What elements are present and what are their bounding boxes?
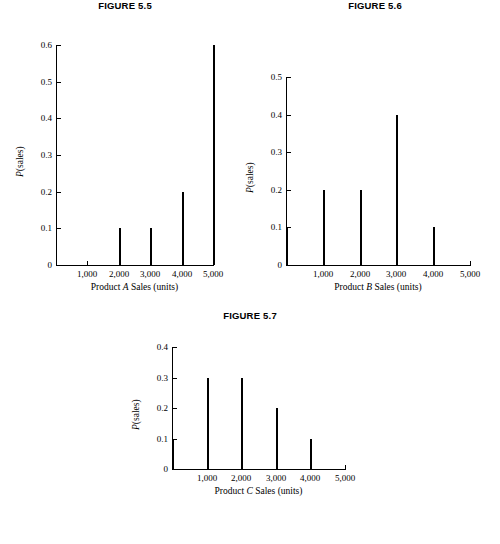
y-axis-tick [57, 155, 61, 156]
x-axis-tick-label: 2,000 [221, 474, 261, 483]
figure-5-5-plot: 00.10.20.30.40.50.61,0002,0003,0004,0005… [0, 0, 250, 300]
y-axis-tick [173, 378, 177, 379]
y-axis-tick-label: 0.5 [26, 78, 52, 87]
bar [241, 378, 243, 469]
y-axis-tick-label: 0.2 [142, 404, 168, 413]
bar [433, 227, 435, 265]
y-axis-tick [57, 82, 61, 83]
x-axis-title: Product B Sales (units) [288, 283, 468, 293]
y-axis-tick-label: 0.4 [26, 114, 52, 123]
x-axis-tick-label: 5,000 [193, 270, 233, 279]
bar [276, 408, 278, 469]
bar [182, 192, 184, 265]
y-axis-title: P(sales) [246, 162, 256, 193]
figure-5-6-plot: 00.10.20.30.40.51,0002,0003,0004,0005,00… [250, 0, 500, 310]
bar [150, 228, 152, 265]
y-axis-tick [57, 118, 61, 119]
figure-5-7-plot: 00.10.20.30.41,0002,0003,0004,0005,000Pr… [125, 310, 375, 544]
x-axis-line [286, 265, 471, 266]
x-axis-tick-label: 2,000 [340, 270, 380, 279]
x-axis-title: Product A Sales (units) [45, 283, 225, 293]
y-axis-tick-label: 0.1 [256, 223, 282, 232]
y-axis-title: P(sales) [132, 399, 142, 430]
y-axis-tick-label: 0.3 [256, 148, 282, 157]
bar [360, 190, 362, 265]
x-axis-tick-label: 5,000 [325, 474, 365, 483]
y-axis-tick-label: 0.1 [26, 224, 52, 233]
y-axis-tick-label: 0.5 [256, 73, 282, 82]
bar [119, 228, 121, 265]
y-axis-tick [57, 228, 61, 229]
y-axis-tick [287, 77, 291, 78]
y-axis-tick-label: 0.3 [26, 151, 52, 160]
y-axis-tick-label: 0.2 [256, 186, 282, 195]
y-axis-tick-label: 0.4 [142, 343, 168, 352]
figure-5-7: FIGURE 5.7 00.10.20.30.41,0002,0003,0004… [125, 310, 375, 544]
x-axis-tick-label: 1,000 [303, 270, 343, 279]
x-axis-tick-label: 5,000 [450, 270, 490, 279]
bar [396, 115, 398, 265]
y-axis-tick [57, 45, 61, 46]
y-axis-tick-label: 0.2 [26, 188, 52, 197]
x-axis-tick-label: 4,000 [290, 474, 330, 483]
y-axis-tick [173, 347, 177, 348]
y-axis-tick [287, 115, 291, 116]
y-axis-tick-label: 0.3 [142, 374, 168, 383]
x-axis-tick [87, 261, 88, 265]
x-axis-tick-label: 4,000 [413, 270, 453, 279]
x-axis-line [56, 265, 214, 266]
x-axis-title: Product C Sales (units) [169, 487, 349, 497]
bar [172, 439, 174, 469]
x-axis-tick-label: 3,000 [376, 270, 416, 279]
y-axis-tick [287, 190, 291, 191]
y-axis-tick [173, 408, 177, 409]
bar [323, 190, 325, 265]
x-axis-line [172, 469, 346, 470]
y-axis-tick-label: 0.1 [142, 435, 168, 444]
y-axis-title: P(sales) [16, 146, 26, 177]
figure-5-5: FIGURE 5.5 00.10.20.30.40.50.61,0002,000… [0, 0, 250, 300]
y-axis-tick-label: 0.4 [256, 111, 282, 120]
y-axis-tick-label: 0 [26, 261, 52, 270]
bar [207, 378, 209, 469]
y-axis-tick-label: 0 [142, 465, 168, 474]
y-axis-tick-label: 0.6 [26, 41, 52, 50]
bar [286, 227, 288, 265]
y-axis-tick-label: 0 [256, 261, 282, 270]
bar [213, 45, 215, 265]
y-axis-tick [287, 152, 291, 153]
figure-5-6: FIGURE 5.6 00.10.20.30.40.51,0002,0003,0… [250, 0, 500, 310]
x-axis-tick [345, 465, 346, 469]
bar [310, 439, 312, 469]
x-axis-tick [470, 261, 471, 265]
y-axis-tick [57, 192, 61, 193]
